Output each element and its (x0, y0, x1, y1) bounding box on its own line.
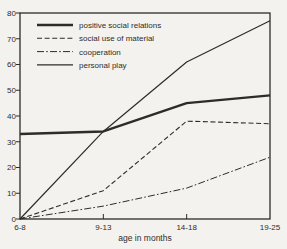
y-tick-label: 70 (7, 35, 16, 44)
legend-label: cooperation (79, 48, 121, 57)
series-line-cooperation (20, 157, 270, 219)
x-tick-label: 19-25 (260, 223, 281, 232)
legend-label: personal play (79, 61, 127, 70)
legend-label: social use of material (79, 34, 154, 43)
y-tick-label: 60 (7, 60, 16, 69)
y-tick-label: 50 (7, 86, 16, 95)
y-tick-label: 80 (7, 9, 16, 18)
series-line-positive-social-relations (20, 95, 270, 134)
plot-border (20, 13, 270, 219)
x-axis-label: age in months (118, 233, 171, 243)
legend-label: positive social relations (79, 21, 161, 30)
y-tick-label: 30 (7, 138, 16, 147)
y-tick-label: 20 (7, 163, 16, 172)
x-tick-label: 14-18 (176, 223, 197, 232)
y-tick-label: 40 (7, 112, 16, 121)
scanned-figure-page: 010203040506070806-89-1314-1819-25age in… (0, 0, 287, 249)
y-tick-label: 10 (7, 189, 16, 198)
series-line-social-use-of-material (20, 121, 270, 219)
x-tick-label: 6-8 (14, 223, 26, 232)
line-chart: 010203040506070806-89-1314-1819-25age in… (0, 0, 287, 249)
x-tick-label: 9-13 (95, 223, 112, 232)
series-line-personal-play (20, 21, 270, 219)
